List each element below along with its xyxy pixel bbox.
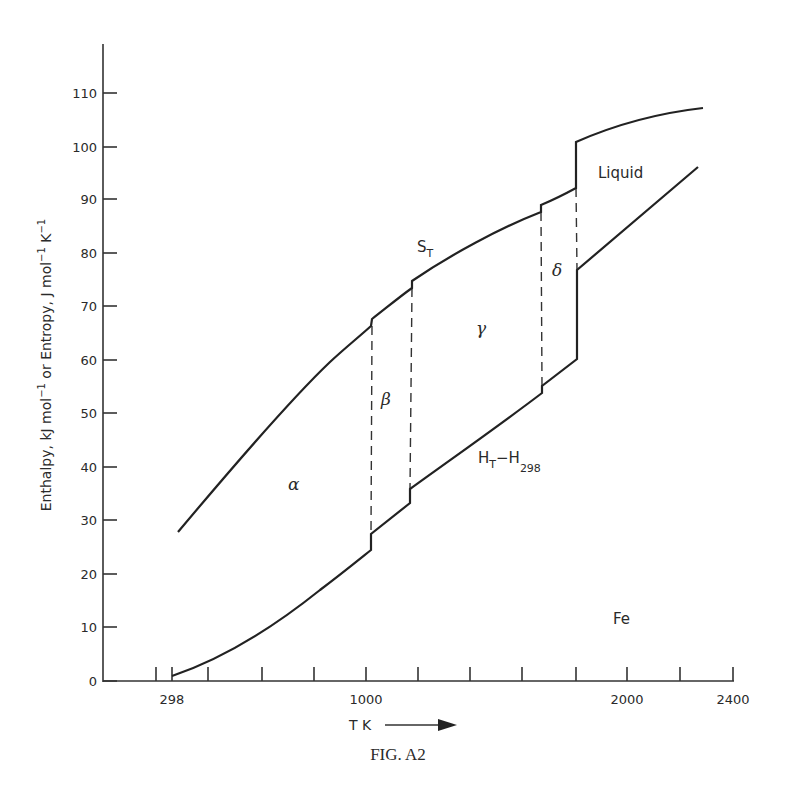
y-tick-40: 40 [80,460,97,475]
y-tick-100: 100 [72,140,97,155]
x-axis-title: T K [348,717,457,733]
chart: 0 10 20 30 40 50 60 70 80 90 100 110 298… [0,0,796,808]
enthalpy-label: HT−H298 [478,449,541,475]
entropy-label: ST [417,238,434,260]
y-tick-20: 20 [80,567,97,582]
x-tick-298: 298 [160,692,185,707]
enthalpy-curve [172,167,698,676]
figure-caption: FIG. A2 [370,745,426,764]
y-tick-110: 110 [72,86,97,101]
phase-gamma-label: γ [476,318,487,338]
y-tick-0: 0 [89,674,97,689]
y-tick-90: 90 [80,192,97,207]
substance-label: Fe [613,610,630,628]
y-tick-labels: 0 10 20 30 40 50 60 70 80 90 100 110 [72,86,97,689]
x-axis [103,667,734,681]
x-tick-2000: 2000 [610,692,643,707]
y-tick-10: 10 [80,620,97,635]
x-tick-labels: 298 1000 2000 2400 [160,692,750,707]
y-tick-80: 80 [80,246,97,261]
x-tick-2400: 2400 [716,692,749,707]
phase-alpha-label: α [288,474,300,494]
y-axis-title: Enthalpy, kJ mol−1 or Entropy, J mol−1 K… [36,219,54,511]
phase-delta-label: δ [552,260,562,280]
transition-lines [371,188,577,534]
phase-beta-label: β [380,389,391,409]
y-tick-30: 30 [80,513,97,528]
svg-text:T K: T K [348,717,372,733]
x-tick-1000: 1000 [349,692,382,707]
phase-liquid-label: Liquid [598,164,643,182]
y-tick-70: 70 [80,299,97,314]
y-axis [103,44,117,682]
y-tick-50: 50 [80,406,97,421]
y-tick-60: 60 [80,353,97,368]
arrow-right-icon [438,719,457,731]
